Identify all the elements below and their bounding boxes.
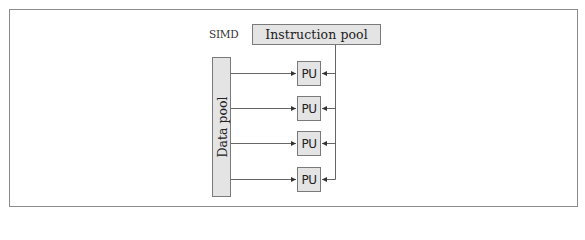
simd-label: SIMD <box>209 28 238 40</box>
processing-unit-4: PU <box>297 167 321 192</box>
pu-label: PU <box>301 137 316 151</box>
pu-label: PU <box>301 67 316 81</box>
processing-unit-2: PU <box>297 96 321 121</box>
data-pool-label: Data pool <box>214 97 229 158</box>
data-pool-box: Data pool <box>212 57 231 197</box>
processing-unit-3: PU <box>297 131 321 156</box>
processing-unit-1: PU <box>297 61 321 86</box>
pu-label: PU <box>301 102 316 116</box>
instruction-pool-label: Instruction pool <box>265 27 368 42</box>
pu-label: PU <box>301 173 316 187</box>
instruction-pool-box: Instruction pool <box>252 24 381 45</box>
